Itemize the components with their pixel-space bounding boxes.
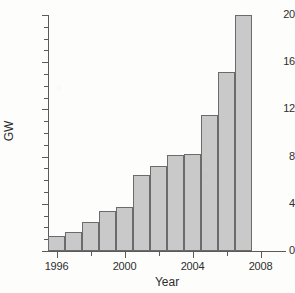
y-tick-minor	[44, 133, 48, 134]
y-tick-major	[42, 157, 48, 158]
bar	[184, 154, 201, 251]
y-tick-minor	[44, 216, 48, 217]
x-tick-minor	[227, 252, 228, 256]
y-tick-minor	[44, 121, 48, 122]
y-tick-major	[42, 15, 48, 16]
x-tick-major	[261, 252, 262, 258]
bar	[167, 155, 184, 251]
y-tick-minor	[44, 74, 48, 75]
bar	[48, 236, 65, 251]
x-axis-line	[48, 251, 286, 252]
y-tick-minor	[44, 239, 48, 240]
bar	[218, 72, 235, 251]
x-tick-major	[125, 252, 126, 258]
x-tick-major	[193, 252, 194, 258]
y-tick-major	[42, 251, 48, 252]
bar	[116, 207, 133, 251]
x-tick-label: 1996	[37, 260, 77, 272]
y-tick-major	[42, 109, 48, 110]
y-tick-minor	[44, 192, 48, 193]
y-tick-label: 8	[257, 150, 295, 162]
y-axis-line	[48, 15, 49, 251]
y-tick-major	[42, 62, 48, 63]
y-tick-minor	[44, 168, 48, 169]
x-tick-label: 2000	[105, 260, 145, 272]
y-tick-label: 0	[257, 244, 295, 256]
y-tick-label: 20	[257, 8, 295, 20]
x-tick-label: 2004	[173, 260, 213, 272]
bar	[65, 232, 82, 251]
y-tick-minor	[44, 98, 48, 99]
y-tick-minor	[44, 86, 48, 87]
y-tick-minor	[44, 180, 48, 181]
y-tick-label: 4	[257, 197, 295, 209]
bar-chart-figure: 048121620 1996200020042008 GW Year	[0, 0, 295, 293]
y-tick-minor	[44, 227, 48, 228]
plot-area: 048121620 1996200020042008 GW Year	[0, 0, 295, 293]
y-tick-minor	[44, 145, 48, 146]
x-tick-minor	[91, 252, 92, 256]
bar	[201, 115, 218, 251]
y-tick-minor	[44, 27, 48, 28]
x-tick-minor	[159, 252, 160, 256]
y-tick-minor	[44, 50, 48, 51]
y-tick-label: 16	[257, 55, 295, 67]
bar	[82, 222, 99, 252]
y-tick-minor	[44, 39, 48, 40]
y-axis-title: GW	[2, 111, 16, 151]
y-tick-major	[42, 204, 48, 205]
x-axis-title: Year	[48, 275, 286, 289]
y-tick-label: 12	[257, 102, 295, 114]
bar	[235, 15, 252, 251]
x-tick-label: 2008	[241, 260, 281, 272]
bar	[150, 166, 167, 251]
x-tick-major	[57, 252, 58, 258]
bar	[99, 211, 116, 251]
bar	[133, 175, 150, 251]
